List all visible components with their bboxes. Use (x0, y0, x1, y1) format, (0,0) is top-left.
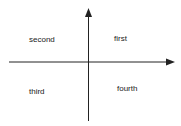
quadrant-diagram (0, 0, 181, 126)
quadrant-label-first: first (114, 35, 127, 43)
y-axis-arrow-icon (85, 8, 92, 17)
quadrant-label-third: third (29, 88, 45, 96)
x-axis-arrow-icon (166, 59, 175, 66)
quadrant-label-second: second (29, 36, 55, 44)
quadrant-label-fourth: fourth (117, 85, 137, 93)
